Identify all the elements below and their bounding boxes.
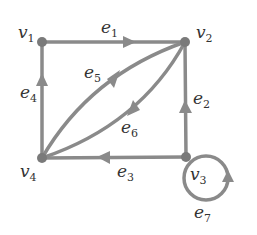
vertices xyxy=(37,37,191,163)
label-v2: v2 xyxy=(196,22,213,45)
vertex-v4[interactable] xyxy=(37,153,47,163)
arrow-up-icon xyxy=(36,73,48,86)
edge-e2 xyxy=(185,42,186,157)
label-e2: e2 xyxy=(193,88,210,111)
label-e4: e4 xyxy=(20,82,37,105)
label-v1: v1 xyxy=(18,22,35,45)
label-e1: e1 xyxy=(101,17,118,40)
arrow-down-left-icon xyxy=(107,70,120,88)
label-v4: v4 xyxy=(20,161,37,184)
label-e5: e5 xyxy=(84,62,101,85)
label-e6: e6 xyxy=(121,117,138,140)
edge-e6 xyxy=(42,42,185,158)
directed-graph: v1 v2 v3 v4 e1 e2 e3 e4 e5 e6 e7 xyxy=(0,0,257,235)
vertex-v2[interactable] xyxy=(180,37,190,47)
vertex-v1[interactable] xyxy=(37,37,47,47)
arrow-up-icon xyxy=(222,170,234,182)
label-e3: e3 xyxy=(117,161,134,184)
arrow-up-icon xyxy=(179,100,192,113)
arrow-left-icon xyxy=(97,151,110,164)
edge-e3 xyxy=(42,157,186,158)
edge-e5 xyxy=(42,42,185,158)
arrow-right-icon xyxy=(123,36,136,48)
vertex-v3[interactable] xyxy=(181,152,191,162)
label-v3: v3 xyxy=(190,164,207,187)
label-e7: e7 xyxy=(194,202,211,225)
